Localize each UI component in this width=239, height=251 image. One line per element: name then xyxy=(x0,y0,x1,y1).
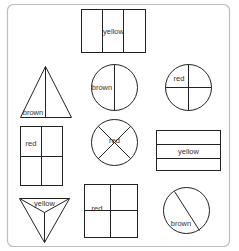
label-rectangle-thirds: yellow xyxy=(103,27,124,36)
label-circle-x-quarters: red xyxy=(109,136,120,145)
label-rectangle-horizontal-thirds: yellow xyxy=(178,147,199,156)
label-circle-quarters: red xyxy=(174,74,185,83)
label-circle-halves: brown xyxy=(92,83,112,92)
fraction-shapes-worksheet: yellow brown brown red red red yellow ye… xyxy=(0,0,239,251)
label-triangle-thirds: yellow xyxy=(34,199,55,208)
label-circle-unequal: brown xyxy=(171,219,191,228)
rectangle-quarters-shape xyxy=(21,127,63,186)
label-triangle-halves: brown xyxy=(23,108,43,117)
label-square-quarters: red xyxy=(92,204,103,213)
circle-quarters-shape xyxy=(166,65,212,111)
label-rectangle-quarters: red xyxy=(26,139,37,148)
